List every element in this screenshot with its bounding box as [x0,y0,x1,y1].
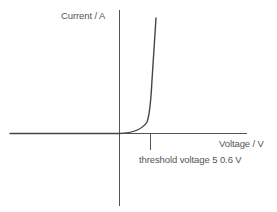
threshold-annotation: threshold voltage 5 0.6 V [139,154,242,165]
y-axis-label: Current / A [61,10,105,21]
diode-iv-chart [0,0,277,212]
iv-curve [10,18,156,134]
x-axis-label: Voltage / V [219,138,264,149]
